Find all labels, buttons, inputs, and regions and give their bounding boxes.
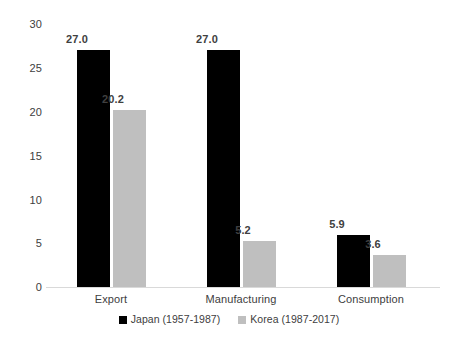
y-tick-label-10: 10 [0,195,42,206]
legend: Japan (1957-1987) Korea (1987-2017) [0,314,458,325]
bar-value-export-japan: 27.0 [54,34,100,45]
plot-area: 30 25 20 15 10 5 0 27.0 20.2 Export 27.0… [0,0,458,341]
y-tick-label-25: 25 [0,63,42,74]
legend-swatch-icon-korea [238,316,246,324]
legend-label-korea: Korea (1987-2017) [250,314,339,325]
bar-manufacturing-japan[interactable] [207,50,240,287]
bar-value-consumption-japan: 5.9 [314,219,360,230]
category-label-manufacturing: Manufacturing [181,293,301,306]
legend-label-japan: Japan (1957-1987) [131,314,221,325]
bar-manufacturing-korea[interactable] [243,241,276,287]
bar-export-korea[interactable] [113,110,146,287]
y-tick-label-5: 5 [0,238,42,249]
y-tick-label-15: 15 [0,151,42,162]
y-tick-label-30: 30 [0,19,42,30]
legend-swatch-icon-japan [119,316,127,324]
y-tick-label-0: 0 [0,282,42,293]
y-axis: 30 25 20 15 10 5 0 [0,0,42,341]
bar-value-manufacturing-japan: 27.0 [184,34,230,45]
bar-value-consumption-korea: 3.6 [350,239,396,250]
bar-value-export-korea: 20.2 [90,94,136,105]
y-tick-label-20: 20 [0,107,42,118]
legend-item-korea[interactable]: Korea (1987-2017) [238,314,339,325]
bar-chart: 30 25 20 15 10 5 0 27.0 20.2 Export 27.0… [0,0,458,341]
bar-consumption-korea[interactable] [373,255,406,287]
legend-item-japan[interactable]: Japan (1957-1987) [119,314,221,325]
category-label-export: Export [51,293,171,306]
bar-value-manufacturing-korea: 5.2 [220,225,266,236]
category-label-consumption: Consumption [311,293,431,306]
bar-export-japan[interactable] [77,50,110,287]
category-axis-line [46,287,440,288]
